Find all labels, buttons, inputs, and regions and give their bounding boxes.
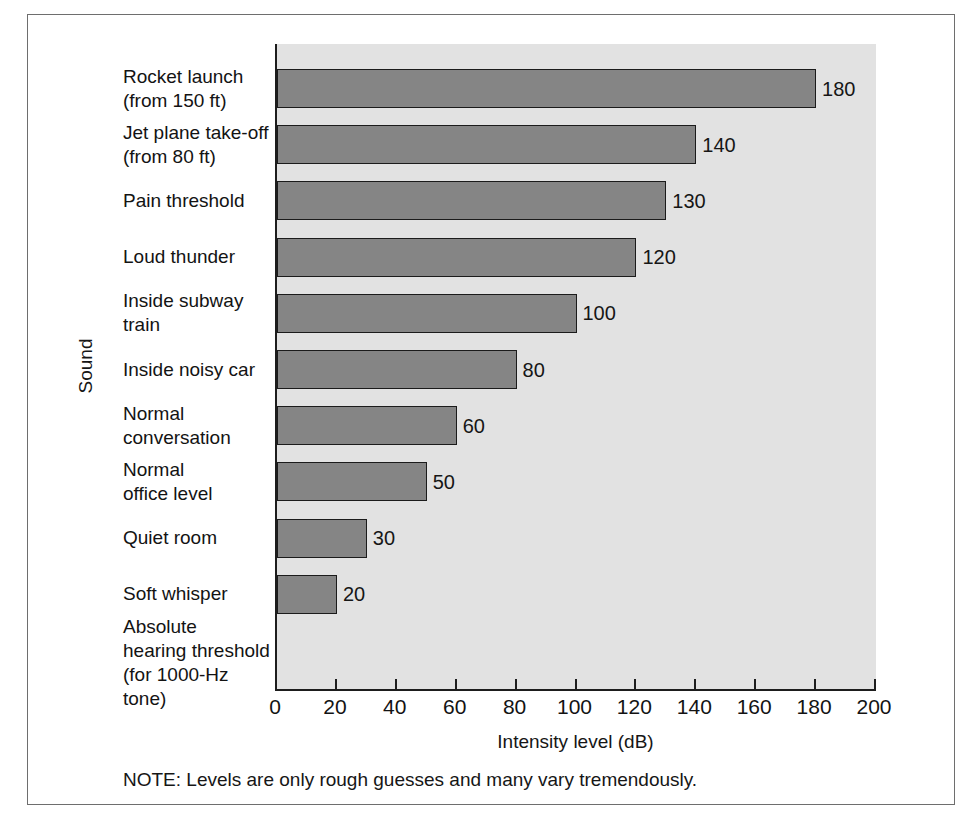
category-label: Soft whisper [123,582,275,606]
bar [277,294,577,333]
category-label: Normal office level [123,458,275,506]
category-label: Jet plane take-off (from 80 ft) [123,121,275,169]
x-axis-title: Intensity level (dB) [275,731,876,753]
bar-value-label: 120 [636,247,675,267]
bar-value-label: 180 [816,79,855,99]
bar-value-label: 60 [457,416,485,436]
bar [277,350,517,389]
x-tick-label: 40 [383,696,406,717]
category-label: Rocket launch (from 150 ft) [123,65,275,113]
bar [277,519,367,558]
x-axis-tick-labels: 020406080100120140160180200 [275,696,876,726]
category-label: Quiet room [123,526,275,550]
bar [277,181,666,220]
bar-value-label: 130 [666,191,705,211]
x-tick-label: 200 [856,696,891,717]
x-tick-label: 100 [557,696,592,717]
bar-value-label: 30 [367,528,395,548]
x-tick-label: 20 [323,696,346,717]
category-label: Inside subway train [123,289,275,337]
category-label: Normal conversation [123,402,275,450]
bar-value-label: 80 [517,360,545,380]
bar-value-label: 20 [337,584,365,604]
bar-value-label: 100 [577,303,616,323]
bar [277,125,696,164]
bar-value-label: 140 [696,135,735,155]
bars-layer: 1801401301201008060503020 [277,44,876,689]
chart-note: NOTE: Levels are only rough guesses and … [123,769,697,791]
category-label: Inside noisy car [123,358,275,382]
bar [277,406,457,445]
x-tick-label: 0 [269,696,281,717]
bar [277,238,636,277]
category-axis-labels: Rocket launch (from 150 ft)Jet plane tak… [123,44,273,691]
x-tick-label: 80 [503,696,526,717]
bar-value-label: 50 [427,472,455,492]
y-axis-title: Sound [75,296,97,436]
category-label: Pain threshold [123,189,275,213]
bar [277,575,337,614]
category-label: Loud thunder [123,245,275,269]
x-tick-label: 160 [737,696,772,717]
bar [277,462,427,501]
category-label: Absolute hearing threshold (for 1000-Hz … [123,615,275,711]
x-tick-label: 120 [617,696,652,717]
x-tick-label: 140 [677,696,712,717]
x-tick-label: 60 [443,696,466,717]
plot-area: 1801401301201008060503020 [275,44,876,691]
x-tick-label: 180 [797,696,832,717]
bar [277,69,816,108]
figure-frame: Sound Rocket launch (from 150 ft)Jet pla… [27,14,955,805]
